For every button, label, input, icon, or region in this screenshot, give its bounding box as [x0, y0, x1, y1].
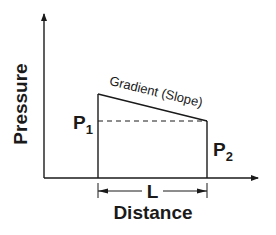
- pressure-gradient-diagram: L Distance Pressure Gradient (Slope) P1 …: [0, 0, 276, 235]
- p1-base: P: [73, 112, 86, 133]
- p2-label: P2: [213, 139, 233, 164]
- x-axis-label: Distance: [113, 202, 192, 223]
- y-axis-label: Pressure: [10, 63, 31, 144]
- p2-subscript: 2: [226, 149, 233, 164]
- p1-label: P1: [73, 112, 93, 137]
- p1-subscript: 1: [86, 122, 93, 137]
- p2-base: P: [213, 139, 226, 160]
- length-label: L: [147, 181, 159, 202]
- gradient-label: Gradient (Slope): [108, 73, 204, 110]
